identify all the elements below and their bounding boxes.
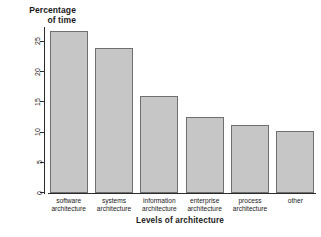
bar	[186, 117, 224, 193]
y-axis-tick-label: 15	[35, 98, 42, 106]
bar-chart: Percentage of time 0510152025 software a…	[0, 0, 321, 237]
x-axis-tick-label: information architecture	[137, 197, 182, 213]
x-axis-line	[48, 193, 316, 194]
x-axis-tick-label: systems architecture	[91, 197, 136, 213]
y-axis-tick-label: 0	[37, 191, 44, 195]
y-axis-tick-label: 25	[35, 37, 42, 45]
y-axis-tick-label: 5	[37, 160, 44, 164]
y-axis-line	[44, 27, 45, 194]
bar	[140, 96, 178, 193]
bar	[276, 131, 314, 193]
bar	[231, 125, 269, 193]
x-axis-tick-label: software architecture	[46, 197, 91, 213]
bar	[50, 31, 88, 193]
x-axis-title: Levels of architecture	[44, 216, 316, 225]
y-axis-tick-label: 20	[35, 68, 42, 76]
plot-area: 0510152025 software architecturesystems …	[44, 14, 316, 194]
x-axis-tick-label: other	[273, 197, 318, 205]
y-axis-tick-label: 10	[35, 128, 42, 136]
x-axis-tick-label: process architecture	[227, 197, 272, 213]
bar	[95, 48, 133, 193]
x-axis-tick-label: enterprise architecture	[182, 197, 227, 213]
